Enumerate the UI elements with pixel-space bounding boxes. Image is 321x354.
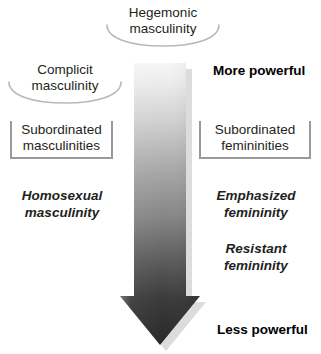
swoosh-label-text: Complicit masculinity <box>6 60 124 94</box>
bracket-label-line2: masculinities <box>23 138 100 153</box>
bracket-label-text: Subordinated masculinities <box>21 122 101 154</box>
swoosh-label-complicit-masculinity: Complicit masculinity <box>6 60 124 104</box>
swoosh-label-line2: masculinity <box>130 21 197 36</box>
italic-label-line2: femininity <box>224 258 288 273</box>
label-less-powerful: Less powerful <box>217 322 308 338</box>
italic-label-line1: Resistant <box>226 241 287 256</box>
bracket-subordinated-femininities: Subordinated femininities <box>199 121 311 159</box>
label-homosexual-masculinity: Homosexual masculinity <box>8 187 116 221</box>
bracket-label-line2: femininities <box>221 138 289 153</box>
bracket-label-line1: Subordinated <box>215 122 295 137</box>
label-more-powerful: More powerful <box>213 63 305 79</box>
swoosh-label-text: Hegemonic masculinity <box>104 3 222 37</box>
swoosh-label-line1: Complicit <box>37 62 93 77</box>
bracket-subordinated-masculinities: Subordinated masculinities <box>10 121 113 159</box>
swoosh-label-line1: Hegemonic <box>129 5 197 20</box>
italic-label-line1: Homosexual <box>22 188 102 203</box>
power-gradient-arrow <box>0 0 321 354</box>
bracket-label-line1: Subordinated <box>21 122 101 137</box>
italic-label-line2: femininity <box>224 205 288 220</box>
bracket-label-text: Subordinated femininities <box>215 122 295 154</box>
swoosh-label-line2: masculinity <box>32 78 99 93</box>
swoosh-label-hegemonic-masculinity: Hegemonic masculinity <box>104 3 222 47</box>
label-emphasized-femininity: Emphasized femininity <box>201 187 311 221</box>
italic-label-line1: Emphasized <box>217 188 296 203</box>
diagram-canvas: Hegemonic masculinity Complicit masculin… <box>0 0 321 354</box>
label-resistant-femininity: Resistant femininity <box>201 240 311 274</box>
italic-label-line2: masculinity <box>25 205 99 220</box>
